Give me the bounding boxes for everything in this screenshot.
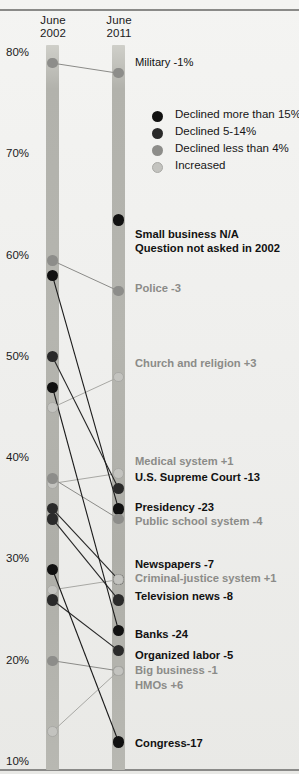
legend-swatch-declined-heavy — [152, 111, 163, 122]
series-label-presidency: Presidency -23 — [135, 501, 214, 514]
series-label-banks: Banks -24 — [135, 628, 188, 641]
series-label-hmos: HMOs +6 — [135, 679, 183, 692]
series-label-medical-system: Medical system +1 — [135, 455, 234, 468]
legend-label-1: Declined 5-14% — [175, 125, 256, 137]
data-point-2002-church-and-religion — [47, 402, 57, 412]
series-note-small-business: Question not asked in 2002 — [135, 242, 280, 255]
data-point-2011-television-news — [113, 594, 125, 606]
legend-label-3: Increased — [175, 159, 226, 171]
data-point-2011-small-business — [113, 214, 125, 226]
data-point-2011-presidency — [113, 503, 125, 515]
legend-label-0: Declined more than 15% — [175, 108, 299, 120]
chart-canvas: June 2002 June 2011 80% 70% 60% 50% 40% … — [0, 0, 299, 774]
data-point-2011-public-school-system — [113, 514, 123, 524]
data-point-2002-organized-labor — [47, 594, 58, 605]
data-point-2011-criminal-justice-system — [113, 574, 123, 584]
data-point-2011-police — [113, 286, 123, 296]
series-label-police: Police -3 — [135, 282, 181, 295]
series-label-church-and-religion: Church and religion +3 — [135, 357, 257, 370]
series-label-small-business: Small business N/A — [135, 228, 239, 241]
legend-swatch-increased — [152, 162, 163, 173]
series-label-military: Military -1% — [135, 56, 193, 69]
data-point-2011-congress — [113, 736, 125, 748]
data-point-2002-police — [47, 255, 57, 265]
data-point-2002-banks — [47, 382, 58, 393]
data-point-2011-church-and-religion — [113, 372, 123, 382]
series-label-public-school-system: Public school system -4 — [135, 515, 262, 528]
series-label-congress: Congress-17 — [135, 737, 203, 750]
data-point-2002-public-school-system — [47, 473, 57, 483]
series-label-newspapers: Newspapers -7 — [135, 558, 214, 571]
series-label-organized-labor: Organized labor -5 — [135, 649, 233, 662]
data-point-2002-big-business — [47, 656, 57, 666]
series-label-u-s-supreme-court: U.S. Supreme Court -13 — [135, 471, 260, 484]
series-label-big-business: Big business -1 — [135, 664, 218, 677]
series-label-criminal-justice-system: Criminal-justice system +1 — [135, 572, 276, 585]
data-point-2011-hmos — [113, 666, 123, 676]
data-point-2002-military — [47, 58, 57, 68]
data-point-2011-medical-system — [113, 468, 123, 478]
legend-swatch-declined-mid — [152, 128, 163, 139]
legend-swatch-declined-light — [152, 145, 163, 156]
data-point-2011-military — [113, 68, 123, 78]
data-point-2002-television-news — [47, 513, 58, 524]
legend-label-2: Declined less than 4% — [175, 142, 289, 154]
series-label-television-news: Television news -8 — [135, 590, 233, 603]
data-point-2002-hmos — [47, 726, 57, 736]
